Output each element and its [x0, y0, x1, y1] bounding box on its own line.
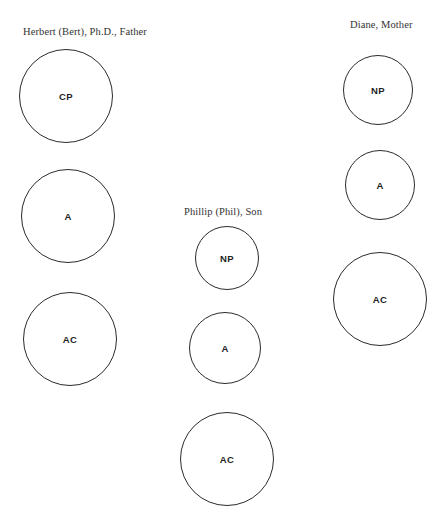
ego-circle-diane-np: NP — [343, 55, 413, 125]
ego-state-label: CP — [59, 91, 73, 102]
ego-state-label: AC — [63, 334, 77, 345]
ego-circle-herbert-ac: AC — [23, 292, 117, 386]
ego-circle-diane-ac: AC — [333, 252, 427, 346]
ego-state-label: NP — [371, 85, 385, 96]
ego-state-label: AC — [220, 454, 234, 465]
ego-state-label: A — [221, 343, 228, 354]
ego-state-label: AC — [373, 294, 387, 305]
ego-state-label: NP — [220, 253, 234, 264]
person-label-herbert: Herbert (Bert), Ph.D., Father — [23, 26, 147, 37]
ego-circle-herbert-cp: CP — [19, 49, 113, 143]
ego-circle-herbert-a: A — [21, 169, 115, 263]
person-label-diane: Diane, Mother — [350, 19, 413, 30]
ego-state-label: A — [376, 180, 383, 191]
ego-circle-phillip-np: NP — [195, 226, 259, 290]
ego-circle-phillip-ac: AC — [180, 412, 274, 506]
ego-circle-diane-a: A — [345, 150, 415, 220]
person-label-phillip: Phillip (Phil), Son — [184, 206, 262, 217]
ego-state-label: A — [64, 211, 71, 222]
ego-circle-phillip-a: A — [189, 312, 261, 384]
